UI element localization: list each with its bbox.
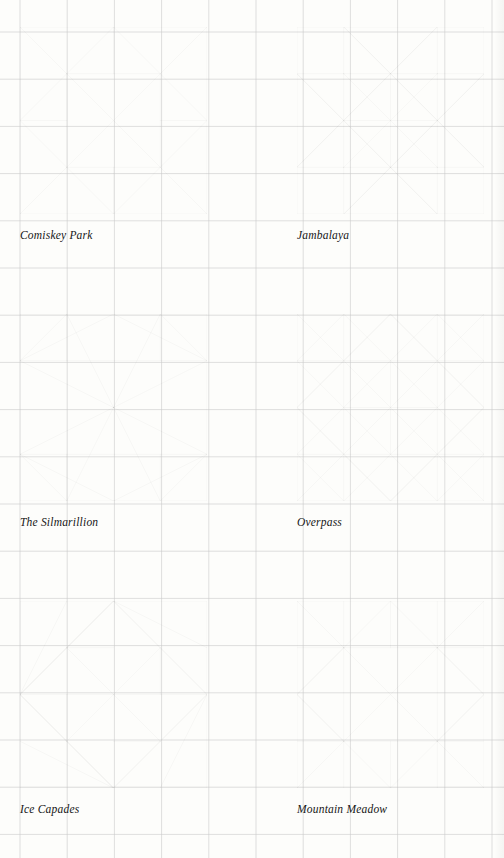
quilt-block-drawing: [297, 27, 484, 214]
block-line: [114, 361, 208, 408]
quilt-block-comiskey-park: [20, 27, 207, 214]
quilt-block-overpass: [297, 314, 484, 501]
block-line: [67, 648, 114, 695]
block-line: [344, 741, 391, 788]
block-line: [20, 314, 67, 361]
block-line: [20, 601, 67, 695]
quilt-blocks-layer: Comiskey ParkJambalayaThe SilmarillionOv…: [0, 0, 504, 858]
block-line: [437, 695, 484, 742]
block-line: [160, 648, 207, 695]
block-line: [391, 741, 438, 788]
quilt-block-drawing: [297, 314, 484, 501]
block-line: [297, 648, 344, 695]
quilt-block-caption: The Silmarillion: [20, 516, 98, 528]
block-line: [20, 741, 114, 788]
block-line: [20, 408, 114, 455]
block-line: [160, 454, 207, 501]
block-line: [160, 27, 207, 74]
block-line: [344, 601, 391, 648]
block-line: [437, 741, 484, 788]
quilt-block-caption: Mountain Meadow: [297, 803, 387, 815]
quilt-block-drawing: [20, 601, 207, 788]
quilt-block-drawing: [297, 601, 484, 788]
block-line: [20, 27, 67, 74]
block-line: [67, 695, 114, 742]
block-line: [297, 601, 344, 648]
block-line: [20, 167, 67, 214]
quilt-block-drawing: [20, 314, 207, 501]
quilt-block-caption: Comiskey Park: [20, 229, 93, 241]
quilt-block-ice-capades: [20, 601, 207, 788]
block-line: [114, 601, 161, 648]
quilt-block-caption: Ice Capades: [20, 803, 79, 815]
block-line: [114, 408, 208, 455]
block-line: [114, 741, 161, 788]
quilt-pattern-page: Comiskey ParkJambalayaThe SilmarillionOv…: [0, 0, 504, 858]
block-line: [160, 167, 207, 214]
quilt-block-drawing: [20, 27, 207, 214]
block-line: [160, 695, 207, 789]
block-line: [114, 695, 161, 742]
block-line: [391, 601, 438, 648]
block-line: [20, 361, 114, 408]
block-line: [297, 741, 344, 788]
block-line: [114, 648, 161, 695]
quilt-block-the-silmarillion: [20, 314, 207, 501]
block-line: [437, 648, 484, 695]
block-line: [160, 695, 207, 742]
quilt-block-caption: Overpass: [297, 516, 342, 528]
quilt-block-caption: Jambalaya: [297, 229, 349, 241]
quilt-block-mountain-meadow: [297, 601, 484, 788]
block-line: [114, 601, 208, 648]
quilt-block-jambalaya: [297, 27, 484, 214]
block-line: [20, 454, 67, 501]
block-line: [160, 314, 207, 361]
block-line: [297, 695, 344, 742]
block-line: [437, 601, 484, 648]
